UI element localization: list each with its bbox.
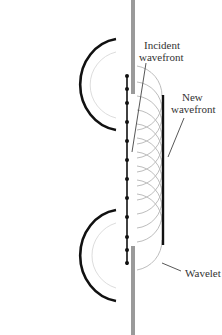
wavelet-leader [162,263,181,271]
new-label-line2: wavefront [171,103,216,115]
left-arcs [80,39,116,301]
incident-wavefront [125,74,129,265]
incident-label-line2: wavefront [139,51,184,63]
new-leader [168,118,184,157]
huygens-diagram: Incident wavefront New wavefront Wavelet [0,0,222,335]
left-arc-bottom-faint [92,223,116,288]
barrier [131,0,135,335]
incident-label-line1: Incident [144,39,180,51]
wavelet-label: Wavelet [185,267,221,279]
barrier-top [131,0,135,94]
left-arc-bottom [80,210,116,301]
leader-lines [132,63,184,271]
left-arc-top-faint [90,52,116,118]
barrier-bottom [131,246,135,335]
new-label-line1: New [182,91,203,103]
